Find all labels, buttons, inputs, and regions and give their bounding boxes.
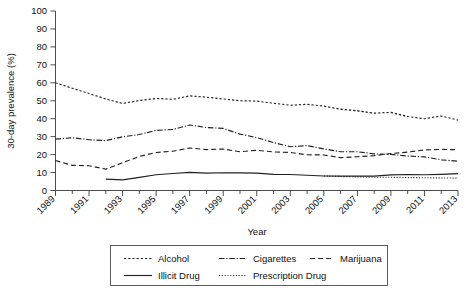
y-tick-label: 90 <box>36 23 47 34</box>
chart-legend: Alcohol Cigarettes Marijuana Illicit Dru… <box>111 246 388 286</box>
line-chart-svg: 30-day prevalence (%) 0 10 20 30 <box>0 0 475 301</box>
legend-label-marijuana: Marijuana <box>340 253 382 264</box>
y-tick-label: 30 <box>36 131 47 142</box>
legend-label-cigarettes: Cigarettes <box>253 253 297 264</box>
legend-box <box>111 246 388 286</box>
y-tick-label: 70 <box>36 59 47 70</box>
y-tick-label: 60 <box>36 77 47 88</box>
y-axis-label: 30-day prevalence (%) <box>5 53 16 149</box>
legend-label-alcohol: Alcohol <box>158 253 189 264</box>
y-tick-label: 40 <box>36 113 47 124</box>
y-tick-label: 20 <box>36 149 47 160</box>
y-tick-label: 80 <box>36 41 47 52</box>
y-tick-label: 10 <box>36 167 47 178</box>
legend-label-illicit-drug: Illicit Drug <box>158 270 200 281</box>
y-tick-label: 100 <box>31 5 47 16</box>
legend-label-prescription-drug: Prescription Drug <box>253 270 326 281</box>
x-axis-label: Year <box>247 226 266 237</box>
y-tick-label: 50 <box>36 95 47 106</box>
y-tick-label: 0 <box>42 185 47 196</box>
chart-figure: 30-day prevalence (%) 0 10 20 30 <box>0 0 475 301</box>
